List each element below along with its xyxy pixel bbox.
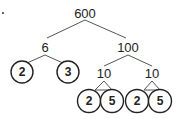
prime-circle-5a: 5: [101, 90, 124, 113]
svg-text:2: 2: [19, 65, 26, 79]
svg-text:2: 2: [134, 94, 141, 108]
svg-text:5: 5: [109, 94, 116, 108]
svg-text:3: 3: [65, 65, 72, 79]
svg-text:2: 2: [86, 94, 93, 108]
prime-circle-2a: 2: [78, 90, 101, 113]
bullet-dot: [2, 12, 4, 14]
prime-circle-3: 3: [57, 61, 79, 83]
node-root: 600: [74, 6, 96, 21]
tree-edges: [27, 20, 160, 90]
factor-tree: 600 6 100 2 3 10 10 2 5 2 5: [0, 0, 176, 122]
prime-circle-5b: 5: [149, 90, 172, 113]
prime-circle-2b: 2: [126, 90, 149, 113]
node-10-right: 10: [145, 66, 159, 81]
svg-text:5: 5: [157, 94, 164, 108]
prime-circle-2: 2: [11, 61, 33, 83]
node-100: 100: [117, 40, 139, 55]
node-10-left: 10: [97, 66, 111, 81]
node-6: 6: [41, 40, 48, 55]
